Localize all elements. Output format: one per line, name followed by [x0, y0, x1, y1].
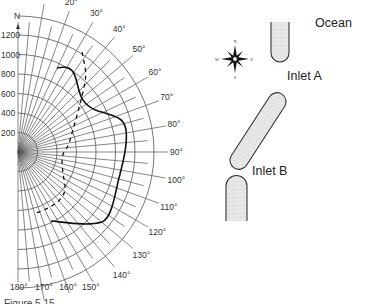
jetty-ocean: [271, 22, 289, 62]
angle-label: 110°: [160, 202, 177, 212]
angle-label: 30°: [90, 8, 103, 18]
radial-tick-label: 800: [1, 69, 15, 79]
angle-label: 170°: [35, 282, 53, 292]
ocean-label: Ocean: [315, 16, 352, 30]
compass-w: W: [215, 57, 219, 62]
bearing-line: [18, 97, 136, 152]
inlet-b-label: Inlet B: [252, 164, 287, 178]
bearing-line: [18, 34, 73, 152]
angle-label: 80°: [168, 119, 181, 129]
compass-n: N: [234, 39, 237, 44]
radial-tick-label: 200: [1, 128, 15, 138]
bearing-line: [18, 118, 144, 152]
angle-label: 120°: [149, 227, 167, 237]
angle-label: 160°: [59, 282, 77, 292]
polar-diagram: N2004006008001000120010°20°30°40°50°60°7…: [1, 0, 185, 300]
bearing-line: [18, 152, 148, 163]
angle-label: 20°: [65, 0, 78, 7]
bearing-line: [18, 22, 29, 152]
angle-label: 150°: [82, 282, 100, 292]
radial-tick-label: 600: [1, 89, 15, 99]
north-arrow-icon: [16, 24, 20, 29]
bearing-line: [18, 152, 73, 270]
jetty-middle: [226, 89, 289, 173]
jetty-inlet-b: [226, 176, 247, 221]
bearing-line: [18, 26, 52, 152]
compass-e: E: [251, 57, 254, 62]
angle-label: 140°: [113, 270, 131, 280]
angle-label: 180°: [10, 282, 28, 292]
inlet-a-label: Inlet A: [287, 69, 322, 83]
north-label: N: [14, 11, 20, 21]
compass-s: S: [234, 75, 236, 80]
angle-label: 100°: [168, 175, 186, 185]
radial-tick-label: 1200: [1, 30, 20, 40]
angle-label: 130°: [133, 250, 151, 260]
angle-label: 50°: [133, 44, 146, 54]
radial-tick-label: 400: [1, 108, 15, 118]
bearing-line: [18, 152, 52, 278]
bearing-line: [18, 152, 29, 282]
angle-label: 40°: [113, 24, 126, 34]
figure-caption: Figure 5.15 ...: [4, 297, 66, 304]
angle-label: 60°: [149, 67, 162, 77]
angle-label: 70°: [160, 92, 173, 102]
bearing-line: [18, 141, 148, 152]
angle-label: 90°: [170, 147, 183, 157]
compass-rose: N S E W: [215, 39, 254, 80]
radial-tick-label: 1000: [1, 50, 20, 60]
